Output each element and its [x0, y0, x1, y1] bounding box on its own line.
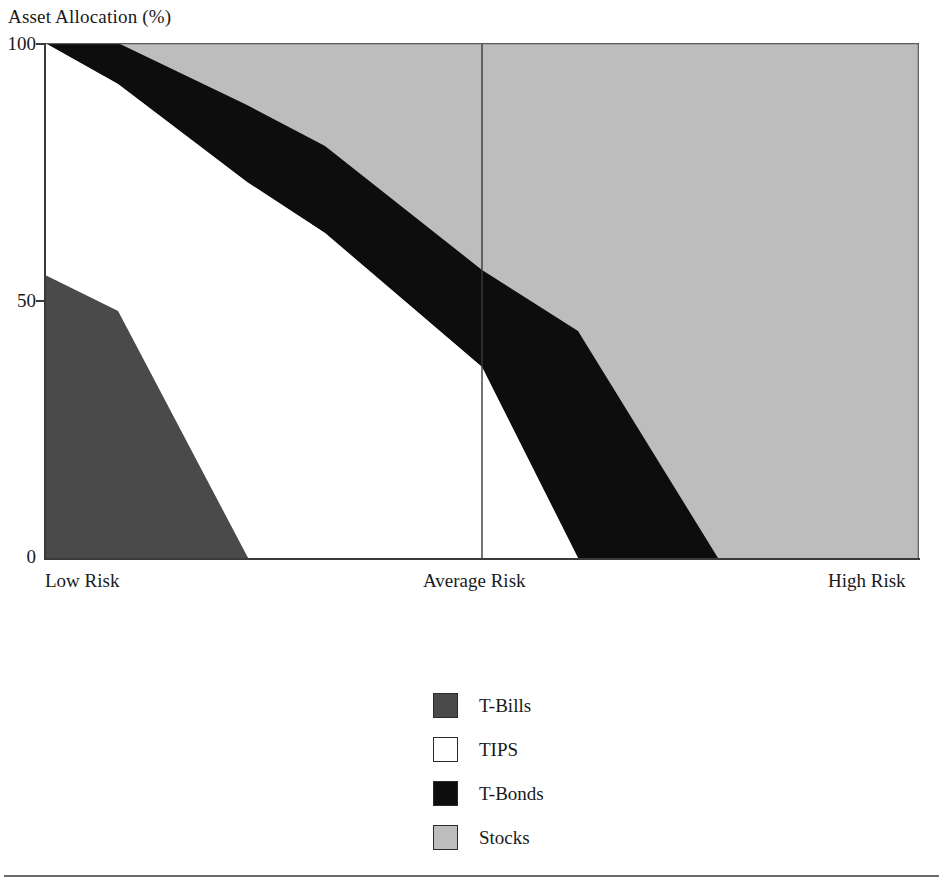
x-tick-label-high-risk: High Risk	[828, 570, 906, 592]
legend-swatch-tips	[433, 737, 458, 762]
legend-item-t-bonds: T-Bonds	[0, 771, 943, 815]
legend-label-stocks: Stocks	[479, 828, 530, 847]
plot-area	[45, 43, 919, 558]
y-tick-mark-100	[36, 43, 45, 45]
stacked-area-svg	[45, 43, 919, 558]
legend-swatch-t-bonds	[433, 781, 458, 806]
legend-label-t-bills: T-Bills	[479, 696, 531, 715]
legend-swatch-t-bills	[433, 693, 458, 718]
footer-note	[6, 880, 936, 894]
y-axis	[44, 43, 46, 560]
legend-swatch-stocks	[433, 825, 458, 850]
x-tick-label-low-risk: Low Risk	[45, 570, 119, 592]
y-tick-label-50: 50	[0, 290, 36, 312]
footer-divider	[4, 875, 939, 877]
legend-label-t-bonds: T-Bonds	[479, 784, 544, 803]
legend: T-Bills TIPS T-Bonds Stocks	[0, 683, 943, 859]
y-tick-label-100: 100	[0, 33, 36, 55]
legend-item-t-bills: T-Bills	[0, 683, 943, 727]
x-tick-label-average-risk: Average Risk	[423, 570, 526, 592]
legend-item-stocks: Stocks	[0, 815, 943, 859]
legend-label-tips: TIPS	[479, 740, 518, 759]
legend-item-tips: TIPS	[0, 727, 943, 771]
page-title: Asset Allocation (%)	[8, 6, 171, 28]
y-tick-label-0: 0	[0, 546, 36, 568]
x-axis	[44, 558, 920, 560]
y-tick-mark-50	[36, 300, 45, 302]
